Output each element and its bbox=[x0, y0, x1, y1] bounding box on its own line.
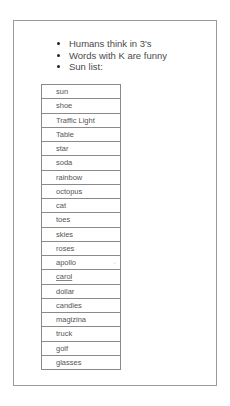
table-cell[interactable]: cat bbox=[42, 199, 121, 213]
table-row: sun bbox=[42, 85, 121, 99]
table-row: dollar bbox=[42, 284, 121, 298]
table-cell[interactable]: Table bbox=[42, 127, 121, 141]
table-row: toes bbox=[42, 213, 121, 227]
cell-text-underlined: carol bbox=[56, 272, 72, 281]
table-row: magizina bbox=[42, 313, 121, 327]
table-row: star bbox=[42, 142, 121, 156]
table-row: soda bbox=[42, 156, 121, 170]
bullet-icon bbox=[57, 54, 60, 57]
table-row: carol bbox=[42, 270, 121, 284]
bullet-text: Words with K are funny bbox=[69, 50, 167, 61]
table-cell[interactable]: roses bbox=[42, 241, 121, 255]
bullet-item[interactable]: Words with K are funny bbox=[54, 50, 167, 62]
table-row: Table bbox=[42, 127, 121, 141]
table-cell[interactable]: candles bbox=[42, 298, 121, 312]
document-page: Humans think in 3's Words with K are fun… bbox=[13, 20, 217, 386]
table-cell[interactable]: carol bbox=[42, 270, 121, 284]
table-cell[interactable]: sun bbox=[42, 85, 121, 99]
table-row: golf bbox=[42, 341, 121, 355]
sun-list-table: sun shoe Traffic Light Table star soda r… bbox=[41, 84, 121, 370]
table-row: rainbow bbox=[42, 170, 121, 184]
table-cell[interactable]: glasses bbox=[42, 355, 121, 369]
bullet-list: Humans think in 3's Words with K are fun… bbox=[54, 38, 167, 73]
cell-text: apollo bbox=[56, 258, 76, 267]
table-row: skies bbox=[42, 227, 121, 241]
table-cell[interactable]: toes bbox=[42, 213, 121, 227]
bullet-icon bbox=[57, 65, 60, 68]
table-cell[interactable]: dollar bbox=[42, 284, 121, 298]
bullet-icon bbox=[57, 42, 60, 45]
table-cell[interactable]: skies bbox=[42, 227, 121, 241]
table-row: Traffic Light bbox=[42, 113, 121, 127]
table-row: roses bbox=[42, 241, 121, 255]
table-row: cat bbox=[42, 199, 121, 213]
table-cell[interactable]: soda bbox=[42, 156, 121, 170]
table-row: truck bbox=[42, 327, 121, 341]
table-row: candles bbox=[42, 298, 121, 312]
chevron-down-icon[interactable]: ⌄ bbox=[111, 259, 118, 266]
table-row: glasses bbox=[42, 355, 121, 369]
table-cell[interactable]: rainbow bbox=[42, 170, 121, 184]
bullet-text: Humans think in 3's bbox=[69, 38, 152, 49]
table-cell[interactable]: octopus bbox=[42, 184, 121, 198]
bullet-item[interactable]: Sun list: bbox=[54, 61, 167, 73]
table-cell[interactable]: apollo ⌄ bbox=[42, 256, 121, 270]
table-cell[interactable]: truck bbox=[42, 327, 121, 341]
table-cell[interactable]: shoe bbox=[42, 99, 121, 113]
table-row: shoe bbox=[42, 99, 121, 113]
table-cell[interactable]: star bbox=[42, 142, 121, 156]
bullet-text: Sun list: bbox=[69, 61, 103, 72]
table-cell[interactable]: golf bbox=[42, 341, 121, 355]
table-cell[interactable]: magizina bbox=[42, 313, 121, 327]
bullet-item[interactable]: Humans think in 3's bbox=[54, 38, 167, 50]
table-row: apollo ⌄ bbox=[42, 256, 121, 270]
table-row: octopus bbox=[42, 184, 121, 198]
table-cell[interactable]: Traffic Light bbox=[42, 113, 121, 127]
